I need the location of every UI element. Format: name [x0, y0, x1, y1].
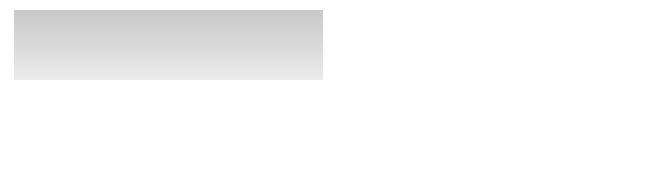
communication-diagram	[0, 0, 665, 176]
